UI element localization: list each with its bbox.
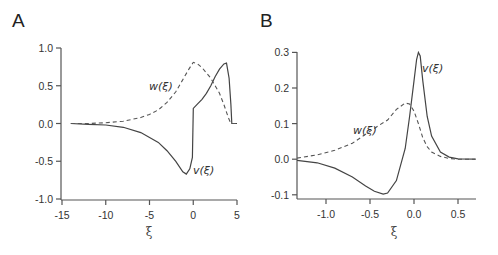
w-curve [297,103,476,159]
y-tick-label: 0.0 [38,118,53,130]
figure-canvas: 1.00.50.0-0.5-1.0-15-10-505ξv(ξ)w(ξ) 0.3… [0,0,498,255]
x-tick-label: 0.0 [407,208,422,220]
v-curve-label: v(ξ) [193,164,214,177]
panel-b-chart: 0.30.20.10.0-0.1-1.0-0.50.00.5ξv(ξ)w(ξ) [271,46,476,239]
panel-a-chart: 1.00.50.0-0.5-1.0-15-10-505ξv(ξ)w(ξ) [35,42,240,239]
y-tick-label: -1.0 [35,193,53,205]
y-tick-label: 1.0 [38,42,53,54]
v-curve-label: v(ξ) [422,62,443,75]
v-curve [297,52,476,194]
x-tick-label: -1.0 [317,208,335,220]
x-tick-label: 0 [190,209,196,221]
w-curve-label: w(ξ) [149,80,173,93]
x-tick-label: 5 [234,209,240,221]
y-tick-label: 0.0 [274,153,289,165]
y-tick-label: 0.1 [274,118,289,130]
y-tick-label: 0.3 [274,46,289,58]
x-tick-label: -10 [98,209,113,221]
x-axis-title: ξ [391,225,398,239]
y-tick-label: -0.1 [271,189,289,201]
y-tick-label: 0.2 [274,82,289,94]
x-tick-label: -0.5 [361,208,379,220]
y-tick-label: -0.5 [35,155,53,167]
x-tick-label: -15 [54,209,69,221]
x-axis-title: ξ [146,225,153,239]
x-tick-label: 0.5 [451,208,466,220]
x-tick-label: -5 [145,209,154,221]
w-curve-label: w(ξ) [353,124,377,137]
y-tick-label: 0.5 [38,80,53,92]
